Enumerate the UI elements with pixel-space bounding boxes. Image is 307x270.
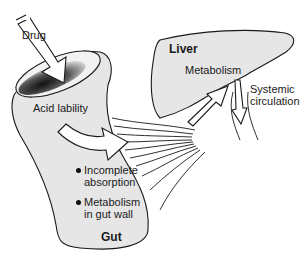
incomplete-absorption-label: Incomplete: [76, 165, 138, 177]
systemic-circulation-label-2: circulation: [250, 96, 300, 108]
bullet-icon: [76, 200, 81, 205]
first-pass-diagram: Drug Acid lability Incomplete absorption…: [0, 0, 307, 270]
incomplete-absorption-label-2: absorption: [84, 177, 135, 189]
bullet-icon: [76, 168, 81, 173]
acid-lability-label: Acid lability: [33, 103, 88, 115]
gut-wall-metabolism-label: Metabolism: [76, 197, 140, 209]
gut-label: Gut: [101, 231, 122, 244]
systemic-circulation-label: Systemic: [250, 84, 295, 96]
diagram-graphics: [0, 0, 307, 270]
systemic-arrow-icon: [232, 80, 247, 124]
liver-metabolism-label: Metabolism: [185, 65, 241, 77]
liver-label: Liver: [169, 43, 198, 56]
gut-wall-metabolism-label-2: in gut wall: [84, 209, 133, 221]
drug-label: Drug: [22, 30, 46, 42]
